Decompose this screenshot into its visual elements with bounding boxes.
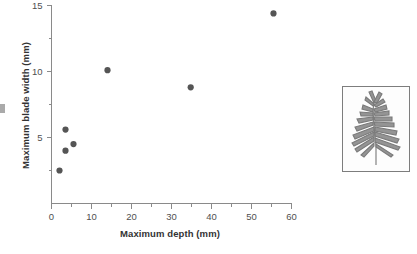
x-tick-label-60: 60 [286, 211, 297, 222]
data-point [62, 148, 68, 154]
x-tick-label-50: 50 [246, 211, 257, 222]
y-tick-label-15: 15 [32, 0, 43, 11]
data-point [188, 84, 194, 90]
x-tick-label-40: 40 [206, 211, 217, 222]
x-axis-title: Maximum depth (mm) [0, 228, 340, 239]
data-point [70, 141, 76, 147]
y-tick-label-5: 5 [37, 132, 42, 143]
data-point [104, 67, 110, 73]
figure-root: 010203040506051015 Maximum depth (mm) Ma… [0, 0, 417, 254]
data-point [62, 126, 68, 132]
plant-specimen-icon [343, 87, 409, 171]
x-tick-label-20: 20 [126, 211, 137, 222]
inset-specimen-box [342, 86, 410, 172]
x-tick-label-30: 30 [166, 211, 177, 222]
data-point [56, 167, 62, 173]
data-point [270, 10, 276, 16]
y-axis-title: Maximum blade width (mm) [20, 11, 31, 201]
x-tick-label-0: 0 [49, 211, 54, 222]
y-tick-label-10: 10 [32, 66, 43, 77]
x-tick-label-10: 10 [86, 211, 97, 222]
